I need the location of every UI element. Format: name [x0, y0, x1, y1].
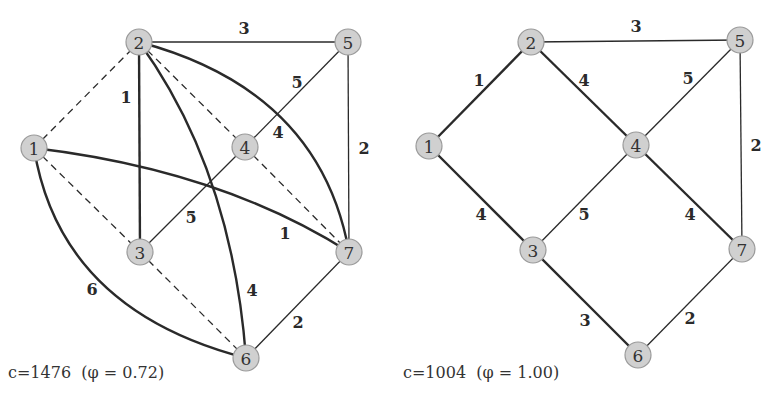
node-7: 7 [729, 236, 755, 262]
edge-weight-label: 5 [291, 73, 302, 92]
node-7: 7 [336, 239, 362, 265]
edge-2-3 [139, 42, 140, 252]
edge-2-4 [531, 42, 636, 145]
node-2: 2 [518, 29, 544, 55]
svg-text:3: 3 [528, 241, 539, 261]
node-5: 5 [727, 27, 753, 53]
edge-3-4 [533, 145, 636, 250]
edge-1-3 [429, 146, 533, 250]
edge-weight-label: 2 [750, 136, 761, 155]
edge-6-7 [246, 252, 349, 358]
edge-weight-label: 2 [684, 309, 695, 328]
edge-weight-label: 4 [272, 123, 283, 142]
node-1: 1 [21, 135, 47, 161]
graph-canvas: 3255214416123456714352454321234567 [0, 0, 780, 416]
edge-weight-label: 4 [475, 205, 486, 224]
edge-4-7 [636, 145, 742, 249]
edge-3-6 [533, 250, 638, 355]
svg-text:1: 1 [424, 137, 435, 157]
edge-weight-label: 3 [238, 19, 249, 38]
edge-weight-label: 2 [358, 139, 369, 158]
right-graph: 14352454321234567 [416, 17, 762, 369]
node-4: 4 [623, 132, 649, 158]
right-graph-caption: c=1004 (φ = 1.00) [403, 363, 559, 382]
node-5: 5 [335, 29, 361, 55]
node-4: 4 [232, 134, 258, 160]
edge-6-7 [638, 249, 742, 355]
svg-text:6: 6 [633, 346, 644, 366]
svg-text:1: 1 [29, 139, 40, 159]
node-6: 6 [233, 345, 259, 371]
edge-weight-label: 1 [473, 71, 484, 90]
edge-1-2 [429, 42, 531, 146]
svg-text:7: 7 [737, 240, 748, 260]
left-graph: 32552144161234567 [21, 19, 370, 372]
svg-text:6: 6 [241, 349, 252, 369]
edge-weight-label: 4 [578, 71, 589, 90]
svg-text:3: 3 [135, 243, 146, 263]
svg-text:7: 7 [344, 243, 355, 263]
edge-2-5 [531, 40, 740, 42]
edge-weight-label: 5 [578, 205, 589, 224]
node-3: 3 [520, 237, 546, 263]
node-3: 3 [127, 239, 153, 265]
svg-text:4: 4 [240, 138, 251, 158]
node-2: 2 [126, 29, 152, 55]
svg-text:2: 2 [526, 33, 537, 53]
node-6: 6 [625, 342, 651, 368]
edge-weight-label: 5 [185, 208, 196, 227]
svg-text:5: 5 [735, 31, 746, 51]
edge-weight-label: 4 [246, 281, 257, 300]
edge-weight-label: 3 [630, 17, 641, 36]
node-1: 1 [416, 133, 442, 159]
edge-weight-label: 3 [579, 311, 590, 330]
svg-text:2: 2 [134, 33, 145, 53]
edge-5-7 [348, 42, 349, 252]
svg-text:5: 5 [343, 33, 354, 53]
edge-3-4 [140, 147, 245, 252]
edge-weight-label: 1 [120, 88, 131, 107]
edge-4-5 [636, 40, 740, 145]
edge-4-5 [245, 42, 348, 147]
edge-weight-label: 1 [279, 224, 290, 243]
edge-weight-label: 5 [682, 69, 693, 88]
edge-weight-label: 4 [684, 205, 695, 224]
edge-weight-label: 2 [292, 313, 303, 332]
edge-5-7 [740, 40, 742, 249]
edge-weight-label: 6 [86, 280, 97, 299]
edge-3-6 [140, 252, 246, 358]
left-graph-caption: c=1476 (φ = 0.72) [8, 363, 164, 382]
svg-text:4: 4 [631, 136, 642, 156]
